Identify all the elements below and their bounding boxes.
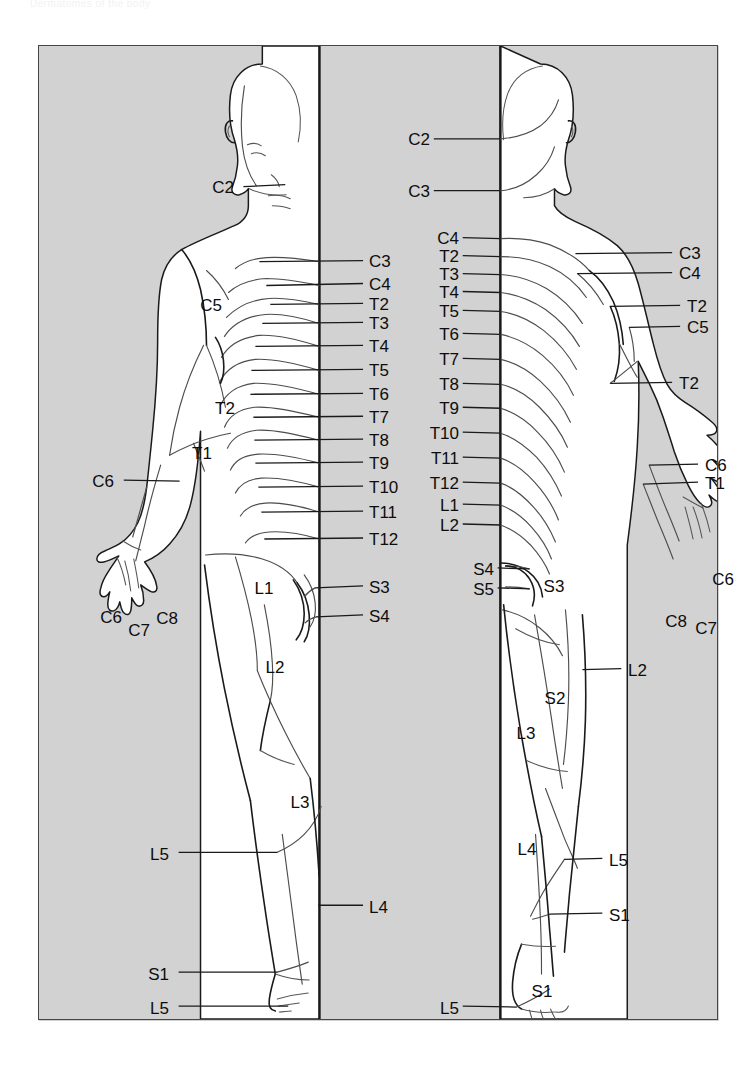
dermatome-label-anterior-c6-17: C6 <box>92 473 114 490</box>
dermatome-label-posterior-l2-29: L2 <box>628 662 647 679</box>
dermatome-label-anterior-t6-7: T6 <box>369 386 389 403</box>
dermatome-label-anterior-t5-6: T5 <box>369 362 389 379</box>
dermatome-label-anterior-t2-15: T2 <box>215 400 235 417</box>
dermatome-label-anterior-c4-2: C4 <box>369 276 391 293</box>
dermatome-label-posterior-c4-2: C4 <box>437 230 459 247</box>
dermatome-label-posterior-s2-30: S2 <box>545 690 566 707</box>
dermatome-label-anterior-t4-5: T4 <box>369 338 389 355</box>
dermatome-label-anterior-l3-25: L3 <box>291 794 310 811</box>
dermatome-label-posterior-c5-21: C5 <box>687 319 709 336</box>
dermatome-label-posterior-t10-11: T10 <box>430 425 459 442</box>
dermatome-label-anterior-t1-16: T1 <box>192 445 212 462</box>
label-lead-line <box>463 407 501 408</box>
label-lead-line <box>463 333 501 334</box>
label-lead-line <box>316 615 363 617</box>
dermatome-label-posterior-t3-4: T3 <box>439 266 459 283</box>
dermatome-label-posterior-c2-0: C2 <box>408 131 430 148</box>
dermatome-label-posterior-l2-15: L2 <box>440 517 459 534</box>
dermatome-label-posterior-s1-35: S1 <box>532 983 553 1000</box>
dermatome-label-posterior-t4-5: T4 <box>439 284 459 301</box>
label-lead-line <box>463 238 501 239</box>
dermatome-label-posterior-t8-9: T8 <box>439 376 459 393</box>
label-lead-line <box>463 291 501 292</box>
dermatome-label-anterior-c8-20: C8 <box>156 610 178 627</box>
dermatome-label-posterior-l4-32: L4 <box>518 841 537 858</box>
dermatome-label-posterior-l5-33: L5 <box>609 852 628 869</box>
dermatome-label-anterior-t10-11: T10 <box>369 479 398 496</box>
dermatome-label-posterior-l3-31: L3 <box>517 725 536 742</box>
dermatome-label-posterior-c7-27: C7 <box>695 620 717 637</box>
dermatome-label-anterior-t3-4: T3 <box>369 315 389 332</box>
dermatome-label-posterior-t2-22: T2 <box>679 375 699 392</box>
dermatome-label-anterior-l1-21: L1 <box>255 580 274 597</box>
dermatome-label-posterior-t11-12: T11 <box>431 450 459 467</box>
dermatome-label-anterior-t11-12: T11 <box>369 504 397 521</box>
dermatome-label-posterior-t9-10: T9 <box>439 400 459 417</box>
label-lead-line <box>463 457 501 458</box>
dermatome-label-posterior-t1-24: T1 <box>705 475 725 492</box>
dermatome-label-posterior-t12-13: T12 <box>430 475 459 492</box>
label-lead-line <box>463 310 501 311</box>
dermatome-label-anterior-c7-19: C7 <box>128 622 150 639</box>
label-lead-line <box>463 274 501 275</box>
dermatome-label-posterior-c3-1: C3 <box>408 183 430 200</box>
dermatome-label-posterior-s5-17: S5 <box>473 581 494 598</box>
label-lead-line <box>463 256 501 257</box>
dermatome-label-anterior-l5-29: L5 <box>150 1000 169 1017</box>
dermatome-label-posterior-s1-34: S1 <box>609 907 630 924</box>
figure-caption: Dermatomes of the body <box>30 0 151 9</box>
dermatome-label-posterior-t2-20: T2 <box>687 298 707 315</box>
dermatome-label-anterior-l5-26: L5 <box>150 846 169 863</box>
dermatome-label-posterior-c4-19: C4 <box>679 265 701 282</box>
dermatome-label-posterior-t7-8: T7 <box>439 351 459 368</box>
dermatome-label-posterior-l1-14: L1 <box>440 497 459 514</box>
dermatome-label-anterior-l4-27: L4 <box>369 899 388 916</box>
dermatome-label-anterior-t7-8: T7 <box>369 409 389 426</box>
dermatome-label-posterior-l5-36: L5 <box>440 1000 459 1017</box>
label-lead-line <box>315 586 363 588</box>
label-lead-line <box>463 504 501 505</box>
dermatome-label-posterior-t5-6: T5 <box>439 303 459 320</box>
dermatome-label-posterior-c6-23: C6 <box>705 457 727 474</box>
dermatome-label-anterior-t8-9: T8 <box>369 432 389 449</box>
label-lead-line <box>463 524 501 525</box>
dermatome-label-posterior-c6-25: C6 <box>712 571 734 588</box>
dermatome-label-posterior-s4-16: S4 <box>473 561 494 578</box>
dermatome-label-posterior-c3-18: C3 <box>679 245 701 262</box>
dermatome-label-posterior-c8-26: C8 <box>665 613 687 630</box>
dermatome-label-posterior-t2-3: T2 <box>439 248 459 265</box>
anterior-figure <box>97 46 321 1019</box>
dermatome-label-posterior-t6-7: T6 <box>439 326 459 343</box>
dermatome-label-anterior-c3-1: C3 <box>369 253 391 270</box>
dermatome-label-anterior-s1-28: S1 <box>148 966 169 983</box>
label-lead-line <box>463 383 501 384</box>
dermatome-label-anterior-s3-22: S3 <box>369 579 390 596</box>
dermatome-label-anterior-l2-24: L2 <box>266 659 285 676</box>
label-lead-line <box>463 358 501 359</box>
label-lead-line <box>463 432 501 433</box>
dermatome-label-posterior-s3-28: S3 <box>544 578 565 595</box>
dermatome-label-anterior-t2-3: T2 <box>369 296 389 313</box>
dermatome-label-anterior-s4-23: S4 <box>369 608 390 625</box>
dermatome-label-anterior-c5-14: C5 <box>200 297 222 314</box>
diagram-panel: C2C3C4T2T3T4T5T6T7T8T9T10T11T12C5T2T1C6C… <box>38 45 718 1020</box>
dermatome-figure-page: Dermatomes of the body <box>0 0 756 1070</box>
dermatome-label-anterior-c6-18: C6 <box>100 609 122 626</box>
dermatome-label-anterior-c2-0: C2 <box>212 179 234 196</box>
label-lead-line <box>463 482 501 483</box>
posterior-figure <box>499 46 717 1019</box>
dermatome-label-anterior-t9-10: T9 <box>369 455 389 472</box>
dermatome-label-anterior-t12-13: T12 <box>369 531 398 548</box>
